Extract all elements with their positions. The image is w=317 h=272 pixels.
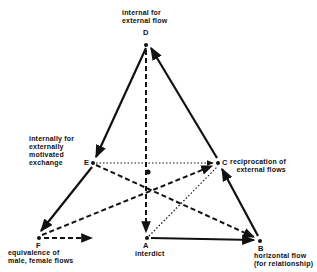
- edge-c-d: [151, 48, 217, 158]
- node-c-label: reciprocation of external flows: [230, 158, 286, 174]
- node-f-dot: [37, 236, 41, 240]
- node-c-letter: C: [222, 158, 227, 167]
- node-a-letter: A: [143, 241, 148, 250]
- node-f-label: equivalence of male, female flows: [8, 249, 73, 265]
- node-e-letter: E: [84, 158, 89, 167]
- node-e-label: internally for externally motivated exch…: [29, 135, 74, 167]
- node-b-label: horizontal flow (for relationship): [254, 252, 313, 268]
- node-b-dot: [258, 239, 262, 243]
- edge-a-b: [151, 238, 254, 240]
- edge-e-b: [96, 165, 254, 237]
- node-e-dot: [91, 161, 95, 165]
- node-c-dot: [216, 161, 220, 165]
- node-d-letter: D: [143, 28, 148, 37]
- node-d-label: internal for external flow: [122, 9, 167, 25]
- edge-e-f: [41, 167, 92, 231]
- node-a-label: interdict: [135, 250, 164, 258]
- node-a-dot: [145, 236, 149, 240]
- node-d-dot: [144, 43, 148, 47]
- edge-d-e: [96, 48, 146, 157]
- center-dot: [146, 170, 151, 175]
- edge-f-c: [42, 166, 212, 235]
